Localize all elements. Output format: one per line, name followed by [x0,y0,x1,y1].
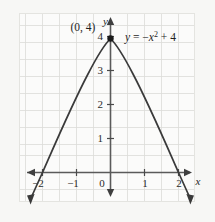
equation-plus: + [158,31,170,43]
graph-figure: −2 −1 0 1 2 1 2 3 4 (0, 4) y = −x2 + 4 y… [0,0,215,222]
y-tick-label-1: 1 [98,132,104,144]
vertex-point-label: (0, 4) [71,21,96,34]
x-tick-label-minus1: −1 [67,177,79,189]
equation-constant: 4 [170,31,176,43]
vertex-point-marker [107,35,113,41]
y-axis-label: y [102,15,108,27]
y-tick-label-2: 2 [98,98,104,110]
parabola-graph-svg: −2 −1 0 1 2 1 2 3 4 (0, 4) y = −x2 + 4 y… [0,0,215,222]
x-axis-label: x [195,175,201,187]
x-tick-label-0: 0 [99,177,105,189]
x-tick-label-1: 1 [142,177,148,189]
equation-equals: = [130,31,142,43]
y-tick-label-4: 4 [98,30,104,42]
equation-label: y = −x2 + 4 [124,30,176,45]
y-tick-label-3: 3 [98,64,104,76]
